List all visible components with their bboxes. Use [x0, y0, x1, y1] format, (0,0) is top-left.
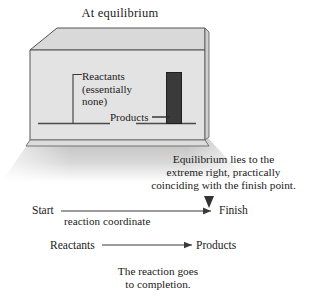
products-bar	[167, 73, 182, 124]
species-products-label: Products	[196, 239, 236, 251]
reactants-label: Reactants (essentially none)	[82, 70, 132, 108]
reactants-leader-line	[73, 75, 82, 124]
reaction-coordinate-row: Start Finish reaction coordinate	[0, 196, 317, 230]
conclusion-line-2: to completion.	[58, 278, 258, 291]
figure-canvas: At equilibrium	[0, 0, 317, 301]
box-right-face	[205, 28, 209, 140]
reaction-coordinate-label: reaction coordinate	[64, 215, 151, 227]
equilibrium-note-line-1: Equilibrium lies to the	[132, 153, 315, 166]
start-label: Start	[32, 204, 54, 216]
species-conversion-row: Reactants Products	[0, 236, 317, 260]
equilibrium-note: Equilibrium lies to the extreme right, p…	[132, 153, 315, 193]
finish-label: Finish	[219, 204, 248, 216]
species-reactants-label: Reactants	[50, 239, 95, 251]
box-top-face	[30, 28, 205, 50]
equilibrium-note-line-3: coinciding with the finish point.	[132, 179, 315, 192]
equilibrium-note-line-2: extreme right, practically	[132, 166, 315, 179]
figure-title: At equilibrium	[0, 6, 240, 21]
products-label: Products	[110, 111, 149, 124]
conclusion-text: The reaction goes to completion.	[58, 265, 258, 292]
conclusion-line-1: The reaction goes	[58, 265, 258, 278]
